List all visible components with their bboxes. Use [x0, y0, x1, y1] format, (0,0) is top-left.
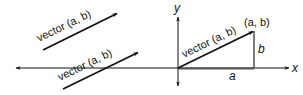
- x-axis-label: x: [291, 61, 299, 75]
- position-vector-label: vector (a, b): [180, 23, 238, 60]
- point-label: (a, b): [244, 16, 270, 28]
- b-component-label: b: [258, 42, 265, 56]
- a-component-label: a: [229, 69, 236, 83]
- y-axis-label: y: [173, 1, 181, 15]
- free-vector-top-label: vector (a, b): [35, 7, 93, 44]
- vector-diagram: x y a b vector (a, b) (a, b) vector (a, …: [0, 0, 303, 95]
- free-vector-bottom-label: vector (a, b): [56, 46, 114, 83]
